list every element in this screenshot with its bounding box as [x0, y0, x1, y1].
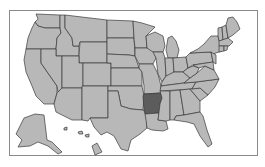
state-south-dakota[interactable]: South Dakota — [107, 38, 135, 56]
state-colorado[interactable]: Colorado — [83, 63, 111, 86]
state-connecticut[interactable]: Connecticut — [219, 46, 224, 52]
state-new-mexico[interactable]: New Mexico — [82, 86, 108, 121]
us-map: WashingtonOregonCaliforniaIdahoNevadaMon… — [0, 0, 265, 167]
state-nebraska[interactable]: Nebraska — [107, 54, 139, 68]
us-map-container: WashingtonOregonCaliforniaIdahoNevadaMon… — [0, 0, 265, 167]
state-kansas[interactable]: Kansas — [111, 68, 142, 86]
state-wyoming[interactable]: Wyoming — [79, 42, 107, 63]
state-north-dakota[interactable]: North Dakota — [107, 20, 134, 38]
